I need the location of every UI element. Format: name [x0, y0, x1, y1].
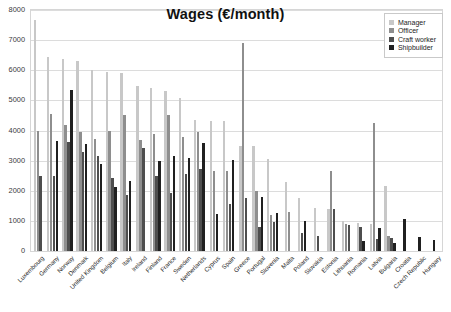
- bar-group: [46, 10, 61, 251]
- bar: [304, 221, 306, 251]
- legend-item[interactable]: Shipbuilder: [389, 44, 436, 51]
- x-axis-tick-label: Finland: [159, 255, 163, 259]
- bar: [378, 228, 380, 251]
- legend-label: Craft worker: [398, 36, 436, 43]
- bar: [418, 237, 420, 251]
- x-axis-tick-label: Denmark: [85, 255, 89, 259]
- bar: [173, 156, 175, 251]
- bar: [216, 214, 218, 251]
- x-axis-tick-label: France: [173, 255, 177, 259]
- bar: [348, 225, 350, 251]
- bar: [188, 158, 190, 251]
- x-axis-tick-label: Slovakia: [320, 255, 324, 259]
- y-axis-tick-label: 4000: [9, 125, 25, 134]
- bar-group: [369, 10, 384, 251]
- bar: [393, 243, 395, 251]
- x-axis-tick-label: Latvia: [379, 255, 383, 259]
- y-axis-tick-label: 3000: [9, 155, 25, 164]
- x-axis-tick-label: Ireland: [144, 255, 148, 259]
- bar-group: [354, 10, 369, 251]
- x-axis: LuxembourgGermanyNorwayDenmarkUnited Kin…: [31, 253, 442, 312]
- bar: [70, 90, 72, 251]
- bar-group: [266, 10, 281, 251]
- x-axis-tick-label: Italy: [129, 255, 133, 259]
- legend-swatch-icon: [389, 37, 394, 42]
- bar-group: [207, 10, 222, 251]
- x-axis-tick-label: Norway: [71, 255, 75, 259]
- legend-item[interactable]: Craft worker: [389, 36, 436, 43]
- y-axis-tick-label: 1000: [9, 215, 25, 224]
- bar: [403, 219, 405, 251]
- bar: [114, 187, 116, 251]
- bar-group: [148, 10, 163, 251]
- bar-group: [325, 10, 340, 251]
- y-axis-tick-label: 2000: [9, 185, 25, 194]
- x-axis-tick-label: United Kingdom: [100, 255, 104, 259]
- x-axis-tick-label: Belgium: [115, 255, 119, 259]
- bar: [142, 148, 144, 251]
- x-axis-tick-label: Greece: [247, 255, 251, 259]
- bar-group: [75, 10, 90, 251]
- bar-group: [339, 10, 354, 251]
- bar: [373, 123, 375, 251]
- x-axis-tick-label: Czech Republic: [423, 255, 427, 259]
- x-axis-tick-label: Hungary: [438, 255, 442, 259]
- bar-group: [222, 10, 237, 251]
- y-axis-tick-label: 7000: [9, 35, 25, 44]
- x-axis-tick-label: Malta: [291, 255, 295, 259]
- x-axis-tick-label: Cyprus: [217, 255, 221, 259]
- y-axis-tick-label: 6000: [9, 65, 25, 74]
- x-axis-tick-label: Luxembourg: [41, 255, 45, 259]
- bar-group: [104, 10, 119, 251]
- x-axis-tick-label: Bulgaria: [394, 255, 398, 259]
- x-axis-tick-label: Lithuania: [350, 255, 354, 259]
- bar-group: [134, 10, 149, 251]
- x-axis-tick-label: Sweden: [188, 255, 192, 259]
- legend-label: Shipbuilder: [398, 44, 433, 51]
- bar: [202, 143, 204, 251]
- bar-group: [192, 10, 207, 251]
- bar: [261, 197, 263, 251]
- legend-item[interactable]: Officer: [389, 27, 436, 34]
- x-axis-tick-label: Portugal: [262, 255, 266, 259]
- x-axis-tick-label: Romania: [364, 255, 368, 259]
- bar: [100, 164, 102, 251]
- bar-group: [310, 10, 325, 251]
- bar-group: [281, 10, 296, 251]
- bar: [85, 144, 87, 251]
- y-axis: 010002000300040005000600070008000: [0, 9, 28, 252]
- bar: [245, 198, 247, 251]
- x-axis-tick-label: Spain: [232, 255, 236, 259]
- legend-swatch-icon: [389, 28, 394, 33]
- legend-label: Officer: [398, 27, 419, 34]
- bar: [39, 176, 41, 251]
- x-axis-tick-label: Germany: [56, 255, 60, 259]
- bar-group: [90, 10, 105, 251]
- bar-group: [251, 10, 266, 251]
- chart-legend: ManagerOfficerCraft workerShipbuilder: [384, 13, 443, 58]
- bar: [56, 141, 58, 251]
- bar-group: [295, 10, 310, 251]
- bar: [317, 236, 319, 251]
- wages-bar-chart: Wages (€/month) 010002000300040005000600…: [0, 0, 451, 312]
- x-axis-tick-label: Poland: [306, 255, 310, 259]
- bar-group: [163, 10, 178, 251]
- x-axis-tick-label: Slovenia: [276, 255, 280, 259]
- legend-swatch-icon: [389, 20, 394, 25]
- legend-item[interactable]: Manager: [389, 19, 436, 26]
- bar: [276, 213, 278, 251]
- y-axis-tick-label: 5000: [9, 95, 25, 104]
- bar: [232, 160, 234, 251]
- bar: [362, 241, 364, 251]
- bar-group: [237, 10, 252, 251]
- bars-layer: [31, 10, 442, 251]
- bar: [129, 181, 131, 251]
- bar: [333, 209, 335, 251]
- x-axis-tick-label: Netherlands: [203, 255, 207, 259]
- bar: [158, 161, 160, 251]
- legend-swatch-icon: [389, 45, 394, 50]
- x-axis-tick-label: Croatia: [408, 255, 412, 259]
- bar: [288, 212, 290, 251]
- bar-group: [178, 10, 193, 251]
- bar: [433, 240, 435, 251]
